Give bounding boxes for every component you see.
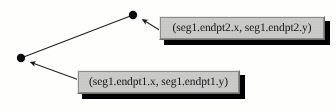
callout-label-endpt2: (seg1.endpt2.x, seg1.endpt2.y) <box>173 22 312 34</box>
line-segment-seg1 <box>21 15 133 58</box>
endpoint-2-dot <box>129 11 137 19</box>
callout-inner-bevel: (seg1.endpt2.x, seg1.endpt2.y) <box>160 17 324 39</box>
endpoint-1-dot <box>17 54 25 62</box>
callout-box-endpt2[interactable]: (seg1.endpt2.x, seg1.endpt2.y) <box>159 16 325 40</box>
diagram-canvas: (seg1.endpt2.x, seg1.endpt2.y) (seg1.end… <box>0 0 336 112</box>
leader-line-endpt1 <box>31 62 80 80</box>
callout-box-endpt1[interactable]: (seg1.endpt1.x, seg1.endpt1.y) <box>77 70 240 94</box>
callout-inner-bevel: (seg1.endpt1.x, seg1.endpt1.y) <box>78 71 239 93</box>
callout-label-endpt1: (seg1.endpt1.x, seg1.endpt1.y) <box>89 76 228 88</box>
